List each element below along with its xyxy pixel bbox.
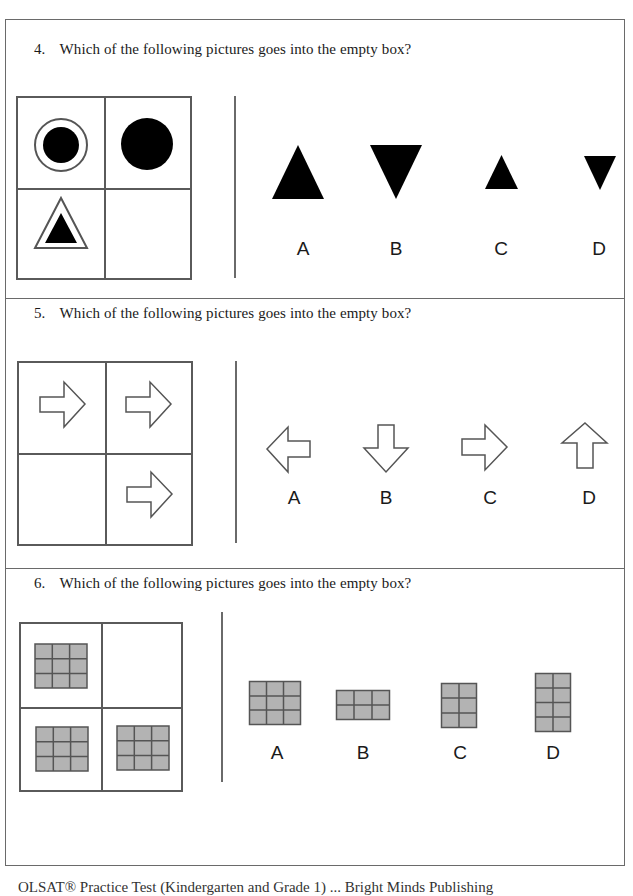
option-b-label[interactable]: B (381, 238, 411, 260)
right-arrow-icon (107, 363, 193, 453)
question-5-prompt: 5. Which of the following pictures goes … (34, 305, 411, 322)
option-a-large-up-triangle-icon[interactable] (272, 145, 324, 200)
black-circle-icon (106, 98, 192, 188)
section-divider (5, 568, 625, 569)
footer-text: OLSAT® Practice Test (Kindergarten and G… (18, 879, 493, 896)
option-b-large-down-triangle-icon[interactable] (370, 145, 422, 199)
option-c-right-arrow-icon[interactable] (461, 424, 509, 472)
question-4-matrix (16, 96, 192, 280)
gray-grid-3x3-icon (21, 709, 101, 792)
matrix-cell-bottom-right (103, 709, 183, 792)
vertical-separator (221, 612, 223, 782)
option-b-down-arrow-icon[interactable] (363, 424, 409, 474)
option-a-gray-grid-3x3-icon[interactable] (249, 681, 301, 726)
question-text: Which of the following pictures goes int… (60, 575, 412, 591)
question-number: 6. (34, 575, 56, 592)
option-c-small-up-triangle-icon[interactable] (485, 155, 518, 189)
option-d-label[interactable]: D (584, 238, 614, 260)
question-number: 5. (34, 305, 56, 322)
ringed-triangle-icon (18, 190, 104, 280)
matrix-cell-bottom-right-empty[interactable] (106, 190, 192, 280)
question-text: Which of the following pictures goes int… (60, 41, 412, 57)
matrix-cell-top-right (106, 98, 192, 188)
matrix-cell-bottom-left (18, 190, 104, 280)
matrix-cell-top-left (18, 98, 104, 188)
matrix-cell-bottom-left-empty[interactable] (19, 455, 105, 545)
matrix-cell-bottom-right (107, 455, 193, 545)
matrix-cell-top-left (21, 624, 101, 707)
question-5-matrix (17, 361, 193, 546)
right-arrow-icon (107, 455, 193, 545)
option-a-label[interactable]: A (262, 742, 292, 764)
matrix-cell-bottom-left (21, 709, 101, 792)
option-d-up-arrow-icon[interactable] (561, 422, 609, 472)
question-number: 4. (34, 41, 56, 58)
ringed-circle-icon (18, 98, 104, 188)
option-c-label[interactable]: C (475, 487, 505, 509)
gray-grid-3x3-icon (21, 624, 101, 707)
question-4-prompt: 4. Which of the following pictures goes … (34, 41, 411, 58)
option-d-label[interactable]: D (574, 487, 604, 509)
option-a-left-arrow-icon[interactable] (266, 426, 312, 474)
option-c-label[interactable]: C (486, 238, 516, 260)
option-c-gray-grid-2x3-icon[interactable] (441, 683, 478, 728)
vertical-separator (235, 361, 237, 543)
question-text: Which of the following pictures goes int… (60, 305, 412, 321)
option-b-label[interactable]: B (371, 487, 401, 509)
vertical-separator (234, 96, 236, 278)
matrix-cell-top-right (107, 363, 193, 453)
option-b-label[interactable]: B (348, 742, 378, 764)
gray-grid-3x3-icon (103, 709, 183, 792)
right-arrow-icon (19, 363, 105, 453)
section-divider (5, 298, 625, 299)
option-a-label[interactable]: A (279, 487, 309, 509)
option-d-gray-grid-2x4-icon[interactable] (535, 673, 572, 733)
matrix-cell-top-left (19, 363, 105, 453)
option-d-label[interactable]: D (538, 742, 568, 764)
question-6-matrix (19, 622, 183, 792)
option-c-label[interactable]: C (445, 742, 475, 764)
option-d-small-down-triangle-icon[interactable] (584, 156, 616, 190)
question-6-prompt: 6. Which of the following pictures goes … (34, 575, 411, 592)
option-b-gray-grid-3x2-icon[interactable] (336, 690, 390, 720)
option-a-label[interactable]: A (288, 238, 318, 260)
matrix-cell-top-right-empty[interactable] (103, 624, 183, 707)
